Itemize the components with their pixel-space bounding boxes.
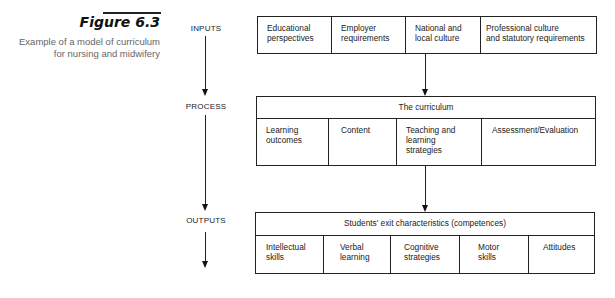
output-cell: Attitudes xyxy=(529,236,594,273)
inputs-box: Educational perspectives Employer requir… xyxy=(257,16,597,54)
cell-text: strategies xyxy=(406,145,481,155)
output-cell: Verbal learning xyxy=(324,236,391,273)
outputs-header: Students' exit characteristics (competen… xyxy=(256,213,594,236)
cell-text: requirements xyxy=(341,33,405,43)
cell-text: Verbal xyxy=(340,242,390,252)
output-cell: Cognitive strategies xyxy=(391,236,460,273)
cell-text: Intellectual xyxy=(266,242,323,252)
stage-arrow-line xyxy=(205,36,206,90)
cell-text: Educational xyxy=(267,23,331,33)
arrow-down-icon xyxy=(202,89,208,96)
cell-text: strategies xyxy=(404,252,459,262)
process-cell: Content xyxy=(329,119,397,165)
output-cell: Intellectual skills xyxy=(256,236,324,273)
cell-text: local culture xyxy=(415,33,480,43)
cell-text: Assessment/Evaluation xyxy=(492,125,595,135)
stage-outputs-label: OUTPUTS xyxy=(180,216,232,225)
cell-text: Teaching and xyxy=(406,125,481,135)
cell-text: learning xyxy=(406,135,481,145)
cell-text: perspectives xyxy=(267,33,331,43)
figure-caption: Example of a model of curriculum for nur… xyxy=(0,36,160,60)
caption-line: for nursing and midwifery xyxy=(0,48,160,60)
connector-line xyxy=(425,166,426,206)
process-cell: Assessment/Evaluation xyxy=(482,119,595,165)
cell-text: National and xyxy=(415,23,480,33)
arrow-down-icon xyxy=(422,89,428,96)
outputs-box: Students' exit characteristics (competen… xyxy=(255,212,595,274)
input-cell: Professional culture and statutory requi… xyxy=(481,17,596,53)
stage-process-label: PROCESS xyxy=(180,102,232,111)
cell-text: outcomes xyxy=(266,135,328,145)
outputs-row: Intellectual skills Verbal learning Cogn… xyxy=(256,236,594,273)
cell-text: skills xyxy=(266,252,323,262)
process-row: Learning outcomes Content Teaching and l… xyxy=(257,119,595,165)
process-cell: Learning outcomes xyxy=(257,119,329,165)
stage-arrow-line xyxy=(205,115,206,205)
cell-text: Learning xyxy=(266,125,328,135)
caption-line: Example of a model of curriculum xyxy=(0,36,160,48)
input-cell: Employer requirements xyxy=(332,17,406,53)
cell-text: and statutory requirements xyxy=(486,33,596,43)
cell-text: Motor xyxy=(478,242,528,252)
figure-title: Figure 6.3 xyxy=(80,14,160,30)
input-cell: National and local culture xyxy=(406,17,481,53)
cell-text: Professional culture xyxy=(486,23,596,33)
stage-arrow-line xyxy=(205,232,206,262)
output-cell: Motor skills xyxy=(460,236,529,273)
arrow-down-icon xyxy=(422,205,428,212)
cell-text: Content xyxy=(341,125,396,135)
cell-text: learning xyxy=(340,252,390,262)
stage-inputs-label: INPUTS xyxy=(180,24,232,33)
cell-text: Attitudes xyxy=(543,242,594,252)
cell-text: Employer xyxy=(341,23,405,33)
input-cell: Educational perspectives xyxy=(258,17,332,53)
process-cell: Teaching and learning strategies xyxy=(397,119,482,165)
inputs-row: Educational perspectives Employer requir… xyxy=(258,17,596,53)
cell-text: Cognitive xyxy=(404,242,459,252)
connector-line xyxy=(425,54,426,90)
arrow-down-icon xyxy=(202,204,208,211)
process-header: The curriculum xyxy=(257,97,595,119)
process-box: The curriculum Learning outcomes Content… xyxy=(256,96,596,166)
cell-text: skills xyxy=(478,252,528,262)
arrow-down-icon xyxy=(202,261,208,268)
